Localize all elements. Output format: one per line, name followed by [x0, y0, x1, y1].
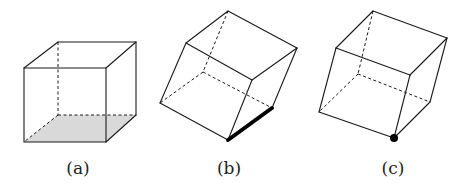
- contact-vertex-dot: [390, 134, 398, 142]
- panel-b-label: (b): [217, 158, 241, 178]
- panel-a-cube-on-face: (a): [24, 42, 136, 178]
- cube-contact-diagram: (a) (b) (c): [0, 0, 468, 188]
- panel-c-cube-on-vertex: (c): [319, 11, 447, 178]
- panel-b-cube-on-edge: (b): [160, 11, 297, 178]
- panel-a-label: (a): [66, 158, 89, 178]
- panel-c-label: (c): [382, 158, 405, 178]
- shaded-bottom-face: [24, 115, 136, 142]
